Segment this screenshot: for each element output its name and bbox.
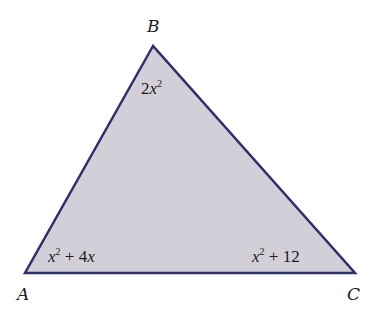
angle-a-var: x: [48, 247, 56, 266]
vertex-label-c: C: [347, 286, 360, 303]
angle-a-rest: + 4: [61, 247, 88, 266]
triangle-figure: [0, 0, 378, 314]
angle-b-exp: 2: [157, 78, 162, 89]
angle-b-var: x: [150, 79, 158, 98]
vertex-label-a: A: [17, 286, 29, 303]
angle-b-expression: 2x2: [141, 79, 162, 97]
angle-c-rest: + 12: [265, 247, 300, 266]
angle-a-rest-var: x: [87, 247, 95, 266]
vertex-label-b: B: [147, 18, 160, 35]
triangle-abc: [25, 46, 355, 273]
angle-a-expression: x2 + 4x: [48, 247, 95, 265]
angle-c-expression: x2 + 12: [252, 247, 300, 265]
angle-b-coef: 2: [141, 79, 150, 98]
angle-c-var: x: [252, 247, 260, 266]
